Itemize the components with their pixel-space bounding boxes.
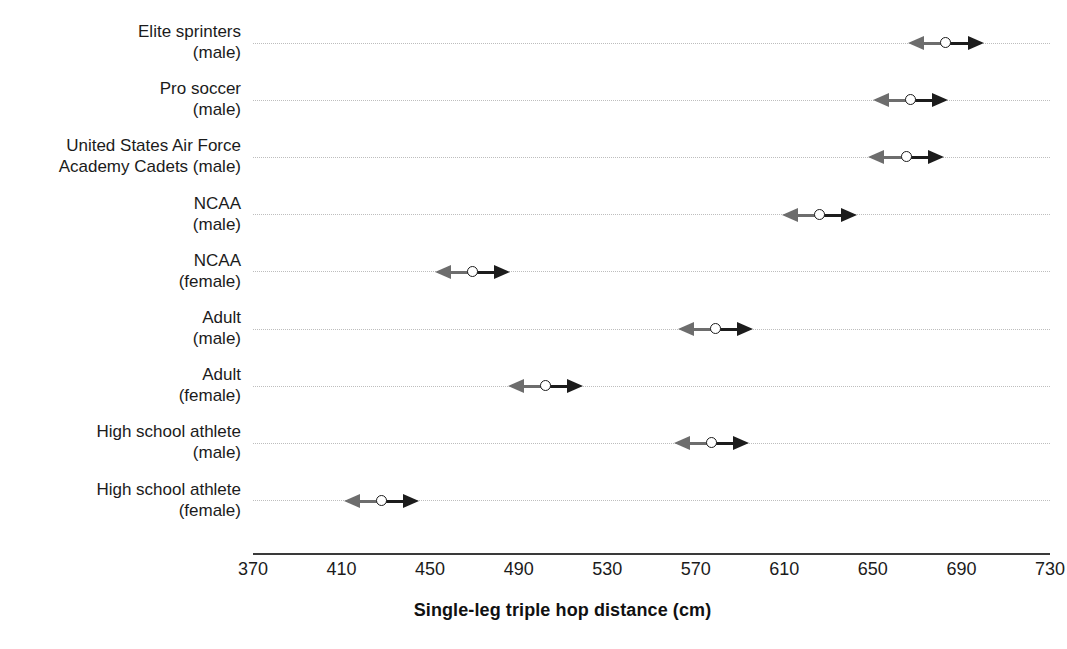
arrow-left-icon [435,265,451,279]
category-label: NCAA(male) [0,193,241,235]
category-label: Adult(male) [0,307,241,349]
category-label: Adult(female) [0,364,241,406]
x-tick-label: 370 [238,559,268,580]
category-label-line1: Adult [0,364,241,385]
value-dot [706,437,717,448]
arrow-right-icon [494,265,510,279]
arrow-left-icon [868,150,884,164]
arrow-right-icon [737,322,753,336]
x-axis-line [253,553,1050,555]
x-tick-label: 530 [592,559,622,580]
category-label-line2: (female) [0,385,241,406]
category-label-line2: Academy Cadets (male) [0,156,241,177]
arrow-right-icon [932,93,948,107]
x-axis-title: Single-leg triple hop distance (cm) [0,600,1067,621]
category-label-line1: Adult [0,307,241,328]
value-dot [540,380,551,391]
arrow-left-icon [782,208,798,222]
category-label-line2: (male) [0,42,241,63]
category-label-line1: High school athlete [0,479,241,500]
arrow-left-icon [344,494,360,508]
category-label-line1: High school athlete [0,421,241,442]
category-label-line2: (male) [0,442,241,463]
value-dot [467,266,478,277]
category-label: Pro soccer(male) [0,78,241,120]
category-label-line2: (female) [0,500,241,521]
arrow-right-icon [567,379,583,393]
x-tick-label: 450 [415,559,445,580]
value-dot [901,151,912,162]
category-label: NCAA(female) [0,250,241,292]
category-label-line1: NCAA [0,250,241,271]
arrow-right-icon [733,436,749,450]
arrow-left-icon [674,436,690,450]
category-label: Elite sprinters(male) [0,21,241,63]
category-label-line1: Pro soccer [0,78,241,99]
value-dot [710,323,721,334]
category-label: High school athlete(female) [0,479,241,521]
x-tick-label: 410 [327,559,357,580]
chart-root: Single-leg triple hop distance (cm) Elit… [0,0,1067,649]
category-label-line2: (male) [0,328,241,349]
category-label: High school athlete(male) [0,421,241,463]
x-tick-label: 730 [1035,559,1065,580]
category-label: United States Air ForceAcademy Cadets (m… [0,135,241,177]
category-label-line1: Elite sprinters [0,21,241,42]
x-tick-label: 650 [858,559,888,580]
arrow-left-icon [873,93,889,107]
x-tick-label: 570 [681,559,711,580]
arrow-left-icon [908,36,924,50]
x-tick-label: 490 [504,559,534,580]
category-label-line1: United States Air Force [0,135,241,156]
x-tick-label: 690 [946,559,976,580]
category-label-line2: (female) [0,271,241,292]
category-label-line1: NCAA [0,193,241,214]
value-dot [905,94,916,105]
x-tick-label: 610 [769,559,799,580]
value-dot [940,37,951,48]
arrow-right-icon [403,494,419,508]
category-label-line2: (male) [0,99,241,120]
arrow-right-icon [928,150,944,164]
value-dot [376,495,387,506]
category-label-line2: (male) [0,214,241,235]
arrow-right-icon [841,208,857,222]
arrow-right-icon [968,36,984,50]
arrow-left-icon [508,379,524,393]
value-dot [814,209,825,220]
arrow-left-icon [678,322,694,336]
